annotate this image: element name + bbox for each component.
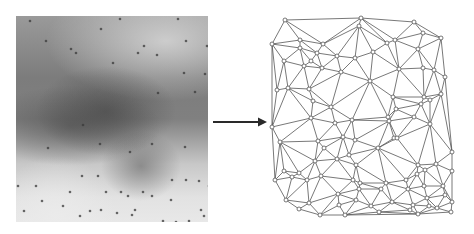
mesh-node bbox=[376, 146, 380, 150]
mesh-edge bbox=[323, 26, 359, 44]
mesh-node bbox=[397, 67, 401, 71]
mesh-node bbox=[278, 140, 282, 144]
mesh-node bbox=[391, 95, 395, 99]
mesh-edge bbox=[335, 123, 343, 137]
mesh-node bbox=[385, 41, 389, 45]
mesh-edge bbox=[386, 180, 406, 183]
mesh-node bbox=[411, 203, 415, 207]
mesh-node bbox=[270, 125, 274, 129]
mesh-edge bbox=[343, 120, 352, 137]
mesh-node bbox=[412, 20, 416, 24]
mesh-node bbox=[270, 42, 274, 46]
mesh-edge bbox=[307, 180, 309, 203]
mesh-node bbox=[307, 201, 311, 205]
mesh-node bbox=[423, 168, 427, 172]
mesh-node bbox=[435, 206, 439, 210]
mesh-edge bbox=[370, 69, 399, 81]
mesh-node bbox=[335, 157, 339, 161]
mesh-node bbox=[387, 119, 391, 123]
mesh-node bbox=[421, 31, 425, 35]
mesh-edge bbox=[277, 61, 284, 90]
mesh-edge bbox=[275, 180, 286, 200]
mesh-edge bbox=[396, 104, 421, 109]
mesh-edge bbox=[393, 97, 421, 104]
mesh-edge bbox=[414, 22, 441, 38]
mesh-node bbox=[416, 47, 420, 51]
mesh-edge bbox=[288, 66, 304, 88]
mesh-edge bbox=[313, 101, 331, 107]
mesh-node bbox=[319, 174, 323, 178]
mesh-edge bbox=[418, 38, 441, 49]
mesh-node bbox=[412, 115, 416, 119]
mesh-node bbox=[377, 210, 381, 214]
mesh-edge bbox=[286, 180, 307, 200]
mesh-node bbox=[371, 50, 375, 54]
mesh-node bbox=[309, 116, 313, 120]
mesh-edge bbox=[341, 58, 355, 72]
mesh-node bbox=[284, 198, 288, 202]
mesh-edge bbox=[378, 148, 386, 183]
mesh-edge bbox=[352, 120, 389, 121]
mesh-edge bbox=[441, 77, 445, 94]
mesh-edge bbox=[315, 161, 321, 176]
mesh-node bbox=[321, 42, 325, 46]
mesh-edge bbox=[418, 164, 436, 165]
mesh-edge bbox=[337, 159, 356, 165]
mesh-node bbox=[297, 207, 301, 211]
mesh-edge bbox=[311, 101, 313, 118]
mesh-edge bbox=[356, 165, 360, 183]
mesh-edge bbox=[393, 69, 399, 97]
mesh-node bbox=[290, 175, 294, 179]
mesh-edge bbox=[424, 70, 434, 97]
mesh-edge bbox=[284, 61, 288, 88]
mesh-node bbox=[416, 163, 420, 167]
mesh-edge bbox=[370, 52, 373, 81]
mesh-node bbox=[282, 59, 286, 63]
mesh-node bbox=[339, 70, 343, 74]
mesh-node bbox=[450, 200, 454, 204]
mesh-edge bbox=[311, 118, 335, 123]
mesh-node bbox=[307, 87, 311, 91]
mesh-edge bbox=[399, 69, 424, 97]
mesh-edge bbox=[445, 77, 452, 152]
mesh-edge bbox=[418, 124, 430, 165]
mesh-edge bbox=[392, 189, 408, 202]
mesh-node bbox=[350, 118, 354, 122]
mesh-edge bbox=[285, 18, 361, 20]
mesh-node bbox=[333, 121, 337, 125]
mesh-edge bbox=[272, 127, 275, 180]
mesh-edge bbox=[322, 56, 337, 68]
mesh-edge bbox=[284, 48, 300, 61]
mesh-edge bbox=[397, 117, 414, 138]
mesh-edge bbox=[373, 43, 387, 52]
mesh-edge bbox=[386, 183, 392, 202]
mesh-node bbox=[443, 75, 447, 79]
mesh-edge bbox=[288, 88, 309, 89]
mesh-edge bbox=[427, 186, 443, 198]
mesh-edge bbox=[309, 176, 321, 203]
mesh-edge bbox=[436, 152, 452, 164]
mesh-node bbox=[357, 24, 361, 28]
mesh-node bbox=[302, 64, 306, 68]
mesh-node bbox=[305, 178, 309, 182]
mesh-node bbox=[421, 66, 425, 70]
mesh-edge bbox=[370, 81, 388, 117]
mesh-edge bbox=[285, 20, 300, 40]
mesh-node bbox=[311, 99, 315, 103]
mesh-edge bbox=[280, 142, 315, 161]
mesh-edge bbox=[341, 72, 370, 81]
mesh-node bbox=[393, 38, 397, 42]
mesh-edge bbox=[360, 183, 381, 189]
mesh-node bbox=[422, 95, 426, 99]
mesh-edge bbox=[389, 117, 414, 121]
mesh-edge bbox=[399, 49, 418, 69]
mesh-edge bbox=[399, 68, 423, 69]
mesh-edge bbox=[441, 94, 452, 152]
mesh-edge bbox=[311, 118, 318, 141]
mesh-node bbox=[282, 169, 286, 173]
mesh-node bbox=[359, 16, 363, 20]
mesh-edge bbox=[408, 189, 427, 198]
mesh-edge bbox=[370, 81, 393, 97]
mesh-node bbox=[315, 51, 319, 55]
mesh-edge bbox=[284, 61, 304, 66]
